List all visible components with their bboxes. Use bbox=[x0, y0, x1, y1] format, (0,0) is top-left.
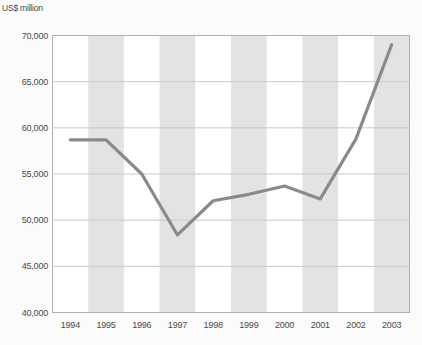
x-tick-2003: 2003 bbox=[382, 320, 401, 330]
x-tick-1999: 1999 bbox=[239, 320, 258, 330]
x-tick-1997: 1997 bbox=[168, 320, 187, 330]
x-tick-1998: 1998 bbox=[204, 320, 223, 330]
x-tick-2001: 2001 bbox=[311, 320, 330, 330]
plot-area bbox=[0, 0, 422, 345]
x-tick-1996: 1996 bbox=[132, 320, 151, 330]
line-chart: US$ million 40,00045,00050,00055,00060,0… bbox=[0, 0, 422, 345]
x-tick-1994: 1994 bbox=[61, 320, 80, 330]
x-tick-2002: 2002 bbox=[346, 320, 365, 330]
x-tick-2000: 2000 bbox=[275, 320, 294, 330]
x-tick-1995: 1995 bbox=[96, 320, 115, 330]
